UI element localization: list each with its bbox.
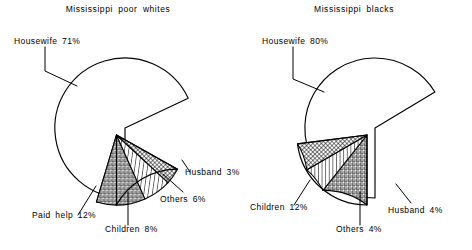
label-others-left: Others 6% [160, 194, 206, 204]
label-children-left: Children 8% [105, 224, 158, 234]
label-husband-left: Husband 3% [185, 167, 240, 177]
label-housewife-right: Housewife 80% [262, 36, 328, 46]
leader-husband [396, 184, 411, 203]
label-children-right: Children 12% [250, 202, 308, 212]
label-husband-right: Husband 4% [388, 205, 443, 215]
chart-panel-poor-whites: Mississippi poor whites [0, 0, 236, 250]
label-others-right: Others 4% [336, 224, 382, 234]
leader-housewife [45, 47, 77, 86]
label-paid-help-left: Paid help 12% [32, 210, 96, 220]
chart-panel-blacks: Mississippi blacks [236, 0, 472, 250]
label-housewife-left: Housewife 71% [14, 36, 80, 46]
